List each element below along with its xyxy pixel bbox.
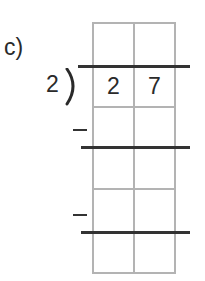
work-cell[interactable] [93,115,134,143]
work-cell[interactable] [134,240,175,268]
grid-line [92,22,176,24]
quotient-cell[interactable] [93,34,134,64]
work-cell[interactable] [93,196,134,224]
quotient-cell[interactable] [134,34,175,64]
grid-line [92,272,176,274]
work-cell[interactable] [134,155,175,183]
division-bracket-icon [63,68,81,106]
dividend-digit: 7 [134,75,175,98]
dividend-digit: 2 [93,75,134,98]
grid-line [92,106,176,108]
work-cell[interactable] [93,240,134,268]
grid-line [92,188,176,190]
work-cell[interactable] [134,196,175,224]
work-cell[interactable] [134,115,175,143]
minus-sign-icon [73,214,87,216]
subtraction-rule [81,231,190,234]
division-bar [78,65,190,68]
work-cell[interactable] [93,155,134,183]
problem-label: c) [4,36,23,59]
subtraction-rule [81,146,190,149]
minus-sign-icon [73,129,87,131]
divisor: 2 [46,73,59,96]
